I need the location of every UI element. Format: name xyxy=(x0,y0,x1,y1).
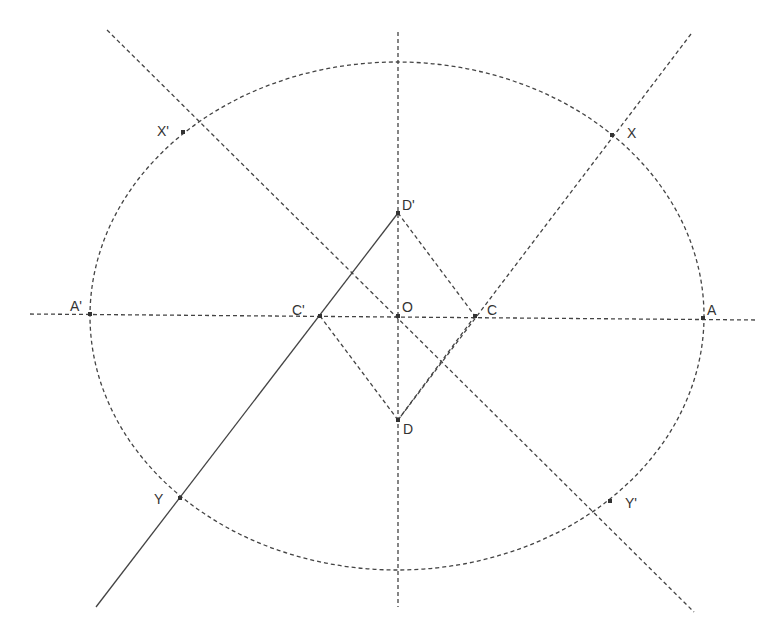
line-d-prime-y xyxy=(96,213,398,607)
label-a-prime: A' xyxy=(70,298,82,314)
geometry-diagram: AA'OCC'DD'XX'YY' xyxy=(0,0,782,640)
label-y-prime: Y' xyxy=(625,495,637,511)
point-d xyxy=(396,418,400,422)
label-c: C xyxy=(487,302,497,318)
point-x xyxy=(610,133,614,137)
point-c-prime xyxy=(318,314,322,318)
point-o xyxy=(396,314,400,318)
line-d-c-prime xyxy=(320,316,398,420)
label-x-prime: X' xyxy=(157,123,169,139)
point-c xyxy=(473,314,477,318)
label-a: A xyxy=(707,302,717,318)
point-y-prime xyxy=(608,499,612,503)
point-a-prime xyxy=(88,312,92,316)
point-x-prime xyxy=(181,130,185,134)
line-x-prime-c xyxy=(107,30,694,612)
label-d-prime: D' xyxy=(402,197,415,213)
label-y: Y xyxy=(154,491,164,507)
horizontal-axis xyxy=(30,314,757,320)
label-o: O xyxy=(402,299,413,315)
point-y xyxy=(178,496,182,500)
label-d: D xyxy=(403,421,413,437)
label-c-prime: C' xyxy=(292,302,305,318)
point-a xyxy=(701,316,705,320)
label-x: X xyxy=(627,125,637,141)
point-d-prime xyxy=(396,211,400,215)
